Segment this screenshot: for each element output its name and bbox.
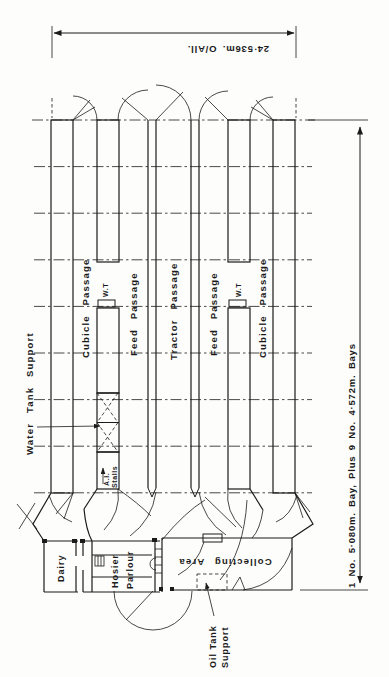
parlour-room: Hosier Parlour	[80, 538, 162, 592]
overall-width-dimension: 24·536m. O/All.	[187, 44, 269, 55]
parlour-exit-swing	[114, 591, 192, 630]
label-collecting-area: Collecting Area	[178, 557, 271, 568]
label-cubicle-passage-left: Cubicle Passage	[80, 258, 91, 358]
water-trough-right	[229, 300, 246, 307]
label-dairy: Dairy	[56, 554, 66, 582]
floor-plan-svg: 24·536m. O/All. 1 No. 5·080m. Bay, Plus …	[0, 0, 389, 677]
label-feed-passage-left: Feed Passage	[128, 272, 139, 356]
label-feed-passage-right: Feed Passage	[208, 272, 219, 356]
feed-barrier-right	[191, 120, 199, 497]
label-ai: A.I.	[103, 473, 110, 486]
label-parlour-2: Parlour	[125, 550, 135, 589]
dairy-room: Dairy	[42, 539, 78, 592]
bay-dimension: 1 No. 5·080m. Bay, Plus 9 No. 4·572m. Ba…	[346, 343, 357, 588]
label-oil-tank-1: Oil Tank	[208, 625, 218, 668]
label-wt-left: W.T	[102, 283, 109, 297]
gate-arcs-top	[73, 85, 273, 120]
water-trough-left	[98, 300, 115, 307]
label-parlour-1: Hosier	[110, 554, 120, 588]
label-tractor-passage: Tractor Passage	[168, 263, 179, 360]
feed-barrier-left	[148, 120, 156, 497]
funnel-walls	[33, 489, 313, 541]
label-oil-tank-2: Support	[220, 627, 230, 669]
collecting-gate-arcs	[178, 500, 292, 590]
label-water-tank-support: Water Tank Support	[24, 332, 35, 455]
drawing-sheet: 24·536m. O/All. 1 No. 5·080m. Bay, Plus …	[0, 0, 389, 677]
cubicle-row-right-inner	[228, 120, 250, 489]
label-cubicle-passage-right: Cubicle Passage	[257, 258, 268, 358]
ai-stalls-annotation: A.I. Stalls	[103, 466, 118, 488]
collecting-area: Collecting Area	[159, 500, 292, 591]
label-stalls: Stalls	[111, 466, 118, 488]
label-wt-right: W.T	[235, 283, 242, 297]
oil-tank-annotation: Oil Tank Support	[206, 583, 230, 668]
funnel-gate-arcs	[17, 489, 310, 540]
cubicle-row-left-inner	[97, 120, 119, 489]
